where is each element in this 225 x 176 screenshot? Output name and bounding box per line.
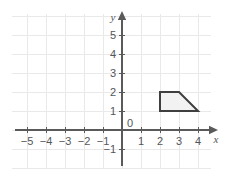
y-tick-label: 3 — [110, 67, 116, 79]
x-tick-label: 2 — [157, 135, 163, 147]
coordinate-plane-svg: −5−4−3−2−11234−1123450 x y — [0, 0, 225, 176]
x-axis-label: x — [213, 133, 219, 145]
y-tick-label: 1 — [110, 105, 116, 117]
x-tick-label: 4 — [195, 135, 201, 147]
x-tick-label: 1 — [138, 135, 144, 147]
x-tick-label: −5 — [21, 135, 34, 147]
coordinate-plane-figure: −5−4−3−2−11234−1123450 x y — [0, 0, 225, 176]
origin-label: 0 — [127, 117, 133, 129]
y-tick-label: 2 — [110, 86, 116, 98]
y-tick-label: 4 — [110, 48, 116, 60]
y-tick-label: −1 — [103, 143, 116, 155]
y-axis-label: y — [110, 11, 116, 23]
x-tick-label: 3 — [176, 135, 182, 147]
y-tick-label: 5 — [110, 29, 116, 41]
x-tick-label: −4 — [40, 135, 53, 147]
x-tick-label: −2 — [78, 135, 91, 147]
x-tick-label: −3 — [59, 135, 72, 147]
